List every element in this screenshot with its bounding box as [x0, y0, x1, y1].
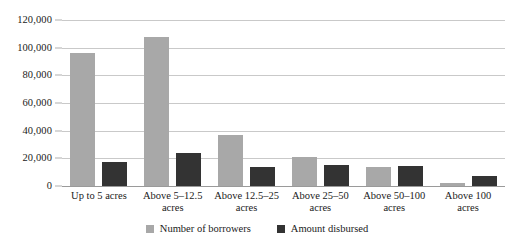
chart-legend: Number of borrowersAmount disbursed: [0, 224, 514, 235]
x-axis-label: Above 12.5–25 acres: [210, 190, 284, 214]
x-axis-label: Above 100 acres: [431, 190, 505, 214]
bar-group: [431, 20, 505, 186]
bar-group: [62, 20, 136, 186]
y-tick-label: 20,000: [23, 153, 52, 164]
x-axis-label: Above 50–100 acres: [357, 190, 431, 214]
bar: [70, 53, 95, 186]
y-tick-mark: [55, 158, 62, 159]
bar-chart: 020,00040,00060,00080,000100,000120,000 …: [0, 0, 514, 250]
bar: [176, 153, 201, 186]
bar-group: [210, 20, 284, 186]
bar: [250, 167, 275, 186]
bar: [102, 162, 127, 186]
y-tick-mark: [55, 20, 62, 21]
bar: [472, 176, 497, 186]
y-axis: 020,00040,00060,00080,000100,000120,000: [0, 20, 62, 186]
bar: [324, 165, 349, 186]
bar: [292, 157, 317, 186]
x-axis-label: Above 5–12.5 acres: [136, 190, 210, 214]
y-tick-mark: [55, 75, 62, 76]
legend-item: Amount disbursed: [277, 224, 368, 235]
bar-groups: [62, 20, 505, 186]
bar-group: [357, 20, 431, 186]
x-axis-label: Above 25–50 acres: [283, 190, 357, 214]
y-tick-label: 80,000: [23, 70, 52, 81]
bar: [366, 167, 391, 186]
bar: [144, 37, 169, 186]
x-axis-labels: Up to 5 acresAbove 5–12.5 acresAbove 12.…: [62, 190, 505, 214]
axis-baseline: [62, 186, 505, 187]
bar: [218, 135, 243, 186]
bar: [440, 183, 465, 186]
bar-group: [283, 20, 357, 186]
y-tick-mark: [55, 103, 62, 104]
y-tick-label: 40,000: [23, 125, 52, 136]
y-tick-label: 60,000: [23, 98, 52, 109]
legend-label: Number of borrowers: [160, 224, 251, 235]
y-tick-label: 0: [47, 181, 52, 192]
bar: [398, 166, 423, 186]
legend-swatch-icon: [277, 225, 285, 233]
y-tick-mark: [55, 130, 62, 131]
legend-swatch-icon: [146, 225, 154, 233]
legend-label: Amount disbursed: [291, 224, 368, 235]
legend-item: Number of borrowers: [146, 224, 251, 235]
y-tick-mark: [55, 47, 62, 48]
y-tick-mark: [55, 186, 62, 187]
y-tick-label: 100,000: [17, 42, 52, 53]
x-axis-label: Up to 5 acres: [62, 190, 136, 214]
y-tick-label: 120,000: [17, 15, 52, 26]
bar-group: [136, 20, 210, 186]
